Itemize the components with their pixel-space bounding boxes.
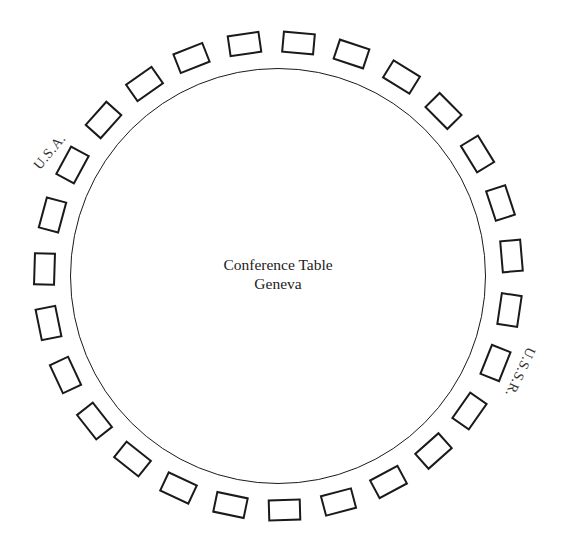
chair xyxy=(212,491,249,519)
conference-table-diagram: Conference Table Geneva U.S.A. U.S.S.R. xyxy=(0,0,562,552)
chair xyxy=(75,401,113,441)
chair xyxy=(319,487,357,517)
chair xyxy=(227,31,263,57)
chair xyxy=(414,432,453,470)
chair xyxy=(159,471,198,505)
chair xyxy=(499,239,524,274)
chair xyxy=(459,134,495,174)
chair xyxy=(381,59,421,95)
chair xyxy=(113,440,153,478)
chair xyxy=(496,292,523,328)
table-location: Geneva xyxy=(178,274,378,293)
chair xyxy=(49,355,83,394)
chair xyxy=(124,66,164,103)
chair xyxy=(424,91,463,130)
chair xyxy=(281,30,316,55)
chair xyxy=(37,196,67,234)
chair xyxy=(173,42,212,75)
table-label: Conference Table Geneva xyxy=(178,255,378,293)
chair xyxy=(333,38,371,69)
chair xyxy=(451,391,488,431)
chair xyxy=(479,343,512,382)
chair xyxy=(268,498,302,521)
chair xyxy=(84,100,122,139)
table-title: Conference Table xyxy=(178,255,378,274)
chair xyxy=(33,252,56,286)
chair xyxy=(485,184,516,222)
chair xyxy=(369,465,408,500)
chair xyxy=(35,305,63,342)
